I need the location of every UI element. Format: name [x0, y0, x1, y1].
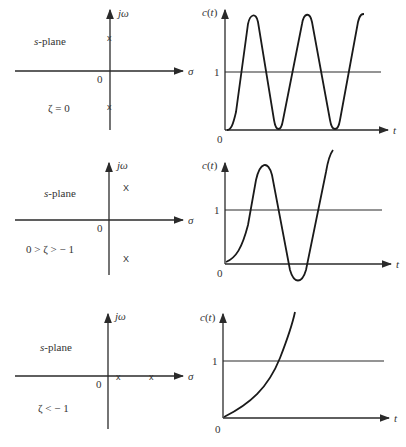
- damping-condition: ζ < − 1: [38, 402, 69, 415]
- t-axis-label: t: [394, 412, 398, 424]
- y-axis-label: c(t): [200, 311, 216, 324]
- real-axis-label: σ: [188, 214, 194, 226]
- imag-axis-label: jω: [115, 159, 128, 171]
- splane-row-2: jω σ 0 s-plane 0 > ζ > − 1 X X: [15, 159, 194, 275]
- pole-marker-upper: X: [123, 183, 129, 193]
- y-axis-label: c(t): [202, 6, 218, 19]
- pole-marker-far: x: [149, 372, 154, 382]
- origin-label: 0: [217, 267, 223, 279]
- real-axis-label: σ: [188, 65, 194, 77]
- origin-label: 0: [97, 73, 103, 85]
- pole-marker-upper: x: [107, 33, 112, 43]
- response-curve: [226, 150, 333, 281]
- t-axis-label: t: [396, 258, 400, 270]
- response-row-3: c(t) t 0 1: [200, 311, 398, 435]
- splane-row-3: jω σ 0 s-plane ζ < − 1 x x: [15, 310, 194, 429]
- imag-axis-label: jω: [116, 7, 129, 19]
- origin-label: 0: [217, 133, 223, 145]
- t-axis-label: t: [393, 124, 397, 136]
- damping-condition: ζ = 0: [48, 102, 70, 115]
- reference-label: 1: [212, 355, 218, 367]
- real-axis-label: σ: [188, 370, 194, 382]
- reference-label: 1: [214, 204, 220, 216]
- figure-canvas: jω σ 0 s-plane ζ = 0 x x c(t) t 0 1 jω σ…: [0, 0, 406, 447]
- response-curve: [224, 312, 295, 417]
- damping-condition: 0 > ζ > − 1: [26, 243, 74, 256]
- origin-label: 0: [97, 222, 103, 234]
- splane-title: s-plane: [44, 187, 76, 199]
- response-row-1: c(t) t 0 1: [202, 6, 397, 145]
- pole-marker-lower: X: [123, 254, 129, 264]
- origin-label: 0: [96, 378, 102, 390]
- pole-marker-lower: x: [107, 102, 112, 112]
- splane-row-1: jω σ 0 s-plane ζ = 0 x x: [15, 7, 194, 130]
- origin-label: 0: [215, 423, 221, 435]
- pole-marker-near: x: [116, 372, 121, 382]
- reference-label: 1: [214, 66, 220, 78]
- splane-title: s-plane: [40, 341, 72, 353]
- y-axis-label: c(t): [202, 159, 218, 172]
- splane-title: s-plane: [34, 35, 66, 47]
- response-row-2: c(t) t 0 1: [202, 150, 400, 281]
- imag-axis-label: jω: [113, 310, 126, 322]
